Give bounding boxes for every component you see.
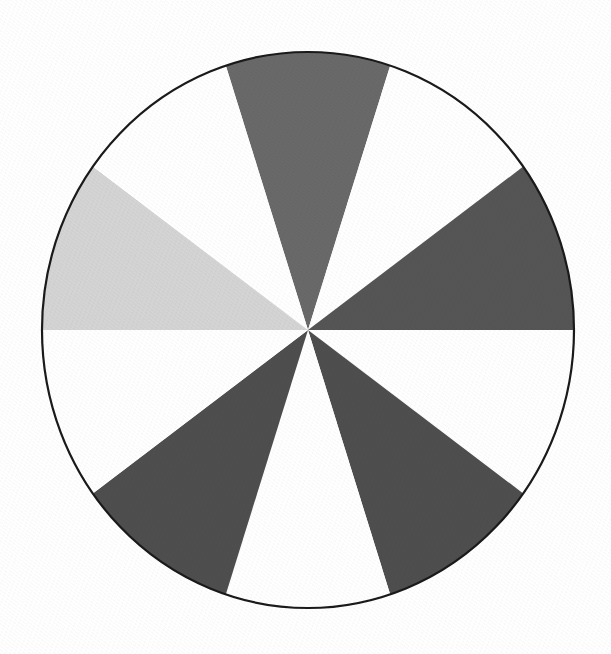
pie-wheel-chart: [0, 0, 611, 654]
pie-sectors-group: [42, 52, 574, 608]
figure-canvas: Circle divided into ten equal sectors, a…: [0, 0, 611, 654]
